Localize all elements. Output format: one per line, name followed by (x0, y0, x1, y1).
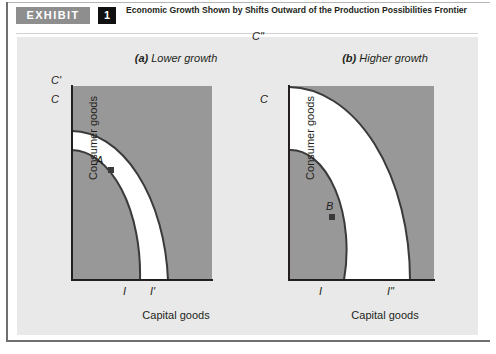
charts-panel: (a) Lower growth C' (17, 37, 478, 335)
exhibit-figure: EXHIBIT 1 Economic Growth Shown by Shift… (0, 0, 496, 354)
chart-b-title: (b) Higher growth (270, 52, 496, 64)
chart-b-point-marker (329, 214, 335, 220)
chart-a-y-axis-title: Consumer goods (87, 73, 99, 203)
chart-b-x-axis (288, 279, 435, 281)
figure-left-rule (6, 2, 8, 342)
chart-a-title: (a) Lower growth (61, 52, 291, 64)
chart-b-point-label: B (326, 200, 333, 212)
chart-a-point-marker (108, 167, 114, 173)
chart-a-xtick-i: I (123, 285, 126, 297)
chart-a-panel-letter: (a) (135, 52, 148, 64)
chart-b-ytick-c-double-prime: C" (252, 30, 264, 42)
header-divider (16, 33, 478, 34)
chart-b-y-axis (288, 85, 290, 281)
exhibit-title: Economic Growth Shown by Shifts Outward … (126, 5, 476, 16)
exhibit-header: EXHIBIT 1 Economic Growth Shown by Shift… (16, 4, 486, 32)
chart-b-ytick-c: C (260, 93, 268, 105)
exhibit-number-badge: 1 (98, 7, 116, 24)
chart-a-x-axis (71, 279, 213, 281)
chart-a-ytick-c: C (51, 93, 59, 105)
chart-higher-growth: (b) Higher growth C" C (270, 37, 496, 335)
figure-top-rule (6, 2, 490, 3)
chart-b-x-axis-title: Capital goods (270, 309, 496, 321)
chart-a-xtick-i-prime: I' (150, 285, 155, 297)
chart-b-y-axis-title: Consumer goods (304, 73, 316, 203)
chart-a-title-text: Lower growth (151, 52, 217, 64)
chart-a-ytick-c-prime: C' (51, 74, 61, 86)
exhibit-badge: EXHIBIT (16, 7, 90, 24)
chart-a-x-axis-title: Capital goods (61, 309, 291, 321)
chart-lower-growth: (a) Lower growth C' (61, 37, 291, 335)
chart-a-y-axis (71, 85, 73, 281)
chart-b-title-text: Higher growth (359, 52, 427, 64)
figure-bottom-rule (6, 340, 490, 342)
chart-b-panel-letter: (b) (342, 52, 356, 64)
chart-b-xtick-i: I (319, 285, 322, 297)
chart-b-xtick-i-double-prime: I" (387, 285, 394, 297)
